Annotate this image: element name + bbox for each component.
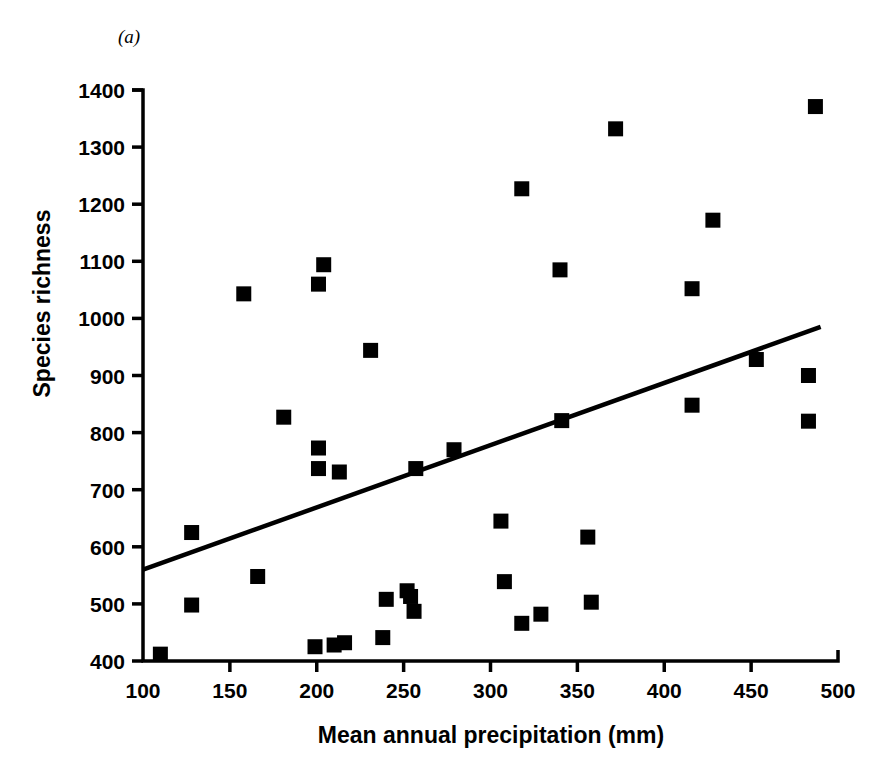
data-point-marker bbox=[808, 99, 823, 114]
data-point-marker bbox=[447, 442, 462, 457]
data-point-marker bbox=[363, 343, 378, 358]
x-tick-label: 450 bbox=[734, 679, 769, 702]
data-point-marker bbox=[554, 413, 569, 428]
data-point-marker bbox=[311, 461, 326, 476]
y-tick-label: 700 bbox=[90, 479, 125, 502]
data-point-marker bbox=[375, 630, 390, 645]
data-point-marker bbox=[514, 616, 529, 631]
x-tick-label: 100 bbox=[125, 679, 160, 702]
x-tick-label: 500 bbox=[820, 679, 855, 702]
y-tick-label: 1400 bbox=[78, 79, 125, 102]
y-tick-label: 600 bbox=[90, 536, 125, 559]
x-tick-label: 400 bbox=[647, 679, 682, 702]
data-point-marker bbox=[749, 352, 764, 367]
data-point-marker bbox=[311, 277, 326, 292]
y-tick-label: 1000 bbox=[78, 307, 125, 330]
scatter-plot-canvas: 4005006007008009001000110012001300140010… bbox=[0, 0, 888, 778]
data-point-marker bbox=[580, 530, 595, 545]
x-tick-label: 200 bbox=[299, 679, 334, 702]
data-point-marker bbox=[311, 441, 326, 456]
data-point-marker bbox=[379, 592, 394, 607]
data-point-marker bbox=[493, 514, 508, 529]
data-point-marker bbox=[685, 398, 700, 413]
data-point-marker bbox=[337, 635, 352, 650]
data-points-layer bbox=[153, 99, 823, 662]
data-point-marker bbox=[685, 281, 700, 296]
y-tick-label: 1200 bbox=[78, 193, 125, 216]
y-tick-label: 500 bbox=[90, 593, 125, 616]
x-tick-label: 350 bbox=[560, 679, 595, 702]
y-tick-label: 900 bbox=[90, 365, 125, 388]
y-tick-label: 800 bbox=[90, 422, 125, 445]
regression-line-layer bbox=[143, 327, 821, 570]
tick-marks-layer bbox=[132, 90, 751, 672]
data-point-marker bbox=[408, 461, 423, 476]
x-tick-label: 300 bbox=[473, 679, 508, 702]
axes-layer bbox=[132, 90, 838, 661]
data-point-marker bbox=[553, 262, 568, 277]
data-point-marker bbox=[584, 595, 599, 610]
data-point-marker bbox=[407, 604, 422, 619]
x-tick-label: 250 bbox=[386, 679, 421, 702]
data-point-marker bbox=[801, 368, 816, 383]
y-tick-label: 400 bbox=[90, 650, 125, 673]
data-point-marker bbox=[308, 639, 323, 654]
x-tick-label: 150 bbox=[212, 679, 247, 702]
data-point-marker bbox=[514, 181, 529, 196]
data-point-marker bbox=[184, 598, 199, 613]
data-point-marker bbox=[608, 121, 623, 136]
data-point-marker bbox=[236, 286, 251, 301]
data-point-marker bbox=[705, 213, 720, 228]
data-point-marker bbox=[332, 464, 347, 479]
data-point-marker bbox=[403, 589, 418, 604]
data-point-marker bbox=[801, 414, 816, 429]
data-point-marker bbox=[184, 525, 199, 540]
y-tick-label: 1100 bbox=[79, 250, 125, 273]
data-point-marker bbox=[276, 410, 291, 425]
figure-panel: (a) Species richness Mean annual precipi… bbox=[0, 0, 888, 778]
data-point-marker bbox=[497, 574, 512, 589]
data-point-marker bbox=[533, 607, 548, 622]
data-point-marker bbox=[250, 569, 265, 584]
y-tick-label: 1300 bbox=[78, 136, 125, 159]
data-point-marker bbox=[316, 257, 331, 272]
axis-spines bbox=[132, 90, 838, 661]
regression-line bbox=[143, 327, 821, 570]
data-point-marker bbox=[153, 647, 168, 662]
